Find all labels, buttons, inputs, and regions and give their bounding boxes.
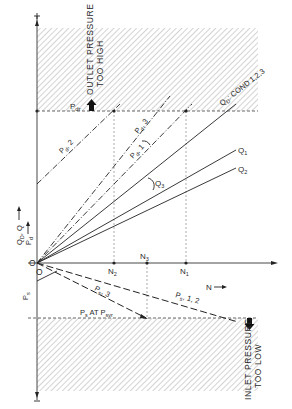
qd-axis-arrow-icon: [17, 206, 21, 211]
pd3-curve: [37, 96, 170, 263]
q2-curve-label: Q2: [238, 165, 247, 175]
pd2-curve-label: Pd, 2: [57, 138, 76, 157]
ps3-curve-label: Ps, 3: [93, 284, 112, 300]
pd1-curve-label: Pd, 1: [128, 142, 147, 161]
q3-angle-arc: [148, 178, 154, 190]
up-arrow-icon: [35, 20, 39, 26]
outlet-zone-label-2: TOO HIGH: [95, 40, 105, 87]
pd2-limit-dot: [112, 109, 115, 112]
pd2-curve: [37, 104, 120, 184]
pd-axis-label: Pd: [24, 237, 34, 245]
n1-dot: [184, 261, 187, 264]
inlet-pressure-too-low-zone: [37, 318, 258, 391]
inlet-zone-label-1: INLET PRESSURE: [243, 319, 253, 400]
origin-label-lower: O: [36, 267, 43, 277]
pd1-curve: [37, 104, 192, 263]
n1-label: N1: [180, 267, 189, 277]
pump-operating-diagram: OUTLET PRESSURE TOO HIGH INLET PRESSURE …: [0, 0, 292, 409]
down-arrow-icon: [35, 392, 39, 398]
origin-label-upper: O: [29, 258, 36, 268]
q2-curve: [37, 168, 236, 263]
q3-curve-label: Q3: [155, 179, 164, 189]
q1-curve-label: Q1: [238, 146, 247, 156]
n3-label: N3: [140, 252, 149, 262]
right-arrow-icon: [271, 261, 278, 265]
n2-label: N2: [108, 267, 117, 277]
pd1-angle-arc: [142, 141, 150, 145]
outlet-zone-label-1: OUTLET PRESSURE: [85, 3, 95, 95]
ps-axis-label: Ps: [21, 292, 31, 300]
n-axis-label: N: [206, 283, 212, 292]
pd-axis-arrow-icon: [26, 221, 30, 226]
ps-at-psvr-label: Ps AT Psvr: [80, 308, 113, 318]
n-axis-arrow-icon: [222, 285, 227, 289]
ps12-curve: [37, 263, 238, 322]
pd3-curve-label: Pd, 3: [133, 117, 151, 136]
outlet-pressure-too-high-zone: [37, 28, 258, 111]
n2-dot: [112, 261, 115, 264]
q1-curve: [37, 150, 236, 263]
inlet-zone-label-2: TOO LOW: [253, 344, 263, 388]
